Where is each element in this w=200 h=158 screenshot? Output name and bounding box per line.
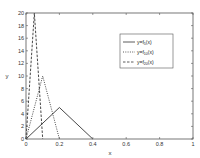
y-tick-label: 2 bbox=[21, 123, 24, 129]
y-tick-label: 12 bbox=[18, 60, 24, 66]
x-tick-label: 0.6 bbox=[122, 141, 130, 147]
x-tick-label: 0.2 bbox=[56, 141, 64, 147]
x-axis-ticks: 00.20.40.60.81 bbox=[24, 13, 194, 147]
y-tick-label: 14 bbox=[18, 48, 24, 54]
series-line-2 bbox=[26, 13, 43, 139]
y-tick-label: 8 bbox=[21, 86, 24, 92]
y-tick-label: 6 bbox=[21, 98, 24, 104]
y-tick-label: 18 bbox=[18, 23, 24, 29]
plot-area-frame bbox=[26, 13, 193, 139]
legend: y=f5(x)y=f10(x)y=f20(x) bbox=[120, 34, 173, 68]
line-chart: 02468101214161820 00.20.40.60.81 x y y=f… bbox=[0, 0, 200, 158]
series-line-1 bbox=[26, 76, 59, 139]
series-line-0 bbox=[26, 108, 93, 140]
y-tick-label: 4 bbox=[21, 111, 24, 117]
data-series bbox=[26, 13, 93, 139]
y-tick-label: 10 bbox=[18, 73, 24, 79]
x-axis-label: x bbox=[109, 150, 112, 156]
x-tick-label: 0.8 bbox=[156, 141, 164, 147]
y-axis-label: y bbox=[6, 73, 9, 79]
y-tick-label: 16 bbox=[18, 35, 24, 41]
x-tick-label: 1 bbox=[191, 141, 194, 147]
x-tick-label: 0.4 bbox=[89, 141, 97, 147]
y-tick-label: 20 bbox=[18, 10, 24, 16]
x-tick-label: 0 bbox=[24, 141, 27, 147]
